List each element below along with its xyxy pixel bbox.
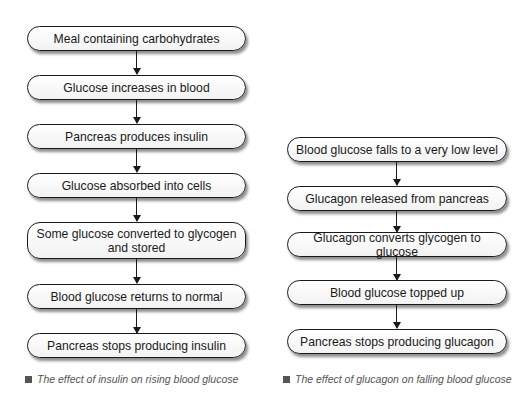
insulin-step-3: Pancreas produces insulin	[27, 124, 246, 149]
glucagon-caption-text: The effect of glucagon on falling blood …	[295, 373, 512, 385]
bullet-square-icon	[25, 376, 32, 383]
arrow-down-icon	[396, 162, 397, 185]
glucagon-caption: The effect of glucagon on falling blood …	[283, 373, 512, 385]
insulin-step-2: Glucose increases in blood	[27, 75, 246, 100]
insulin-step-1: Meal containing carbohydrates	[27, 26, 246, 51]
arrow-down-icon	[396, 305, 397, 328]
glucagon-step-1: Blood glucose falls to a very low level	[287, 137, 507, 162]
insulin-caption: The effect of insulin on rising blood gl…	[25, 373, 238, 385]
glucagon-step-3: Glucagon converts glycogen to glucose	[287, 232, 507, 257]
arrow-down-icon	[136, 100, 137, 123]
insulin-step-6: Blood glucose returns to normal	[27, 284, 246, 309]
glucagon-step-5: Pancreas stops producing glucagon	[287, 329, 507, 354]
arrow-down-icon	[136, 51, 137, 74]
glucagon-step-4: Blood glucose topped up	[287, 280, 507, 305]
arrow-down-icon	[136, 309, 137, 333]
arrow-down-icon	[396, 211, 397, 232]
insulin-step-7: Pancreas stops producing insulin	[27, 333, 246, 358]
arrow-down-icon	[136, 259, 137, 283]
arrow-down-icon	[136, 149, 137, 172]
insulin-step-5: Some glucose converted to glycogen and s…	[27, 222, 246, 259]
bullet-square-icon	[283, 376, 290, 383]
insulin-caption-text: The effect of insulin on rising blood gl…	[37, 373, 238, 385]
insulin-step-4: Glucose absorbed into cells	[27, 173, 246, 198]
glucagon-step-2: Glucagon released from pancreas	[287, 186, 507, 211]
arrow-down-icon	[136, 198, 137, 221]
arrow-down-icon	[396, 257, 397, 280]
